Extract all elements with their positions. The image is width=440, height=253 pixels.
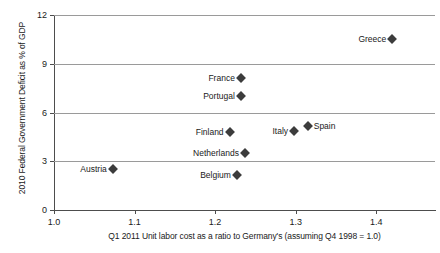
- x-tick-label: 1.0: [48, 217, 61, 227]
- data-point-label: Greece: [358, 34, 386, 44]
- data-point-label: Spain: [314, 121, 336, 131]
- y-tick-mark: [50, 64, 54, 65]
- x-tick-mark: [376, 210, 377, 214]
- gridline: [54, 64, 435, 65]
- chart-figure: 2010 Federal Government Deficit as % of …: [0, 0, 440, 253]
- gridline: [54, 15, 435, 16]
- y-tick-mark: [50, 161, 54, 162]
- data-point-marker[interactable]: [240, 148, 250, 158]
- data-point-marker[interactable]: [236, 73, 246, 83]
- data-point-label: Portugal: [203, 91, 235, 101]
- data-point-label: Belgium: [200, 170, 231, 180]
- x-tick-label: 1.1: [128, 217, 141, 227]
- x-axis-line: [54, 210, 436, 211]
- data-point-marker[interactable]: [289, 126, 299, 136]
- data-point-marker[interactable]: [303, 121, 313, 131]
- y-tick-label: 0: [42, 205, 47, 215]
- plot-area: 036912 1.01.11.21.31.4 GreeceFrancePortu…: [54, 15, 435, 210]
- data-point-marker[interactable]: [225, 127, 235, 137]
- y-tick-label: 12: [37, 10, 47, 20]
- data-point-marker[interactable]: [108, 164, 118, 174]
- y-tick-label: 9: [42, 59, 47, 69]
- data-point-label: Netherlands: [193, 148, 239, 158]
- y-tick-mark: [50, 15, 54, 16]
- y-tick-label: 3: [42, 156, 47, 166]
- x-tick-mark: [54, 210, 55, 214]
- gridline: [54, 113, 435, 114]
- data-point-label: France: [208, 73, 234, 83]
- y-tick-label: 6: [42, 108, 47, 118]
- x-tick-label: 1.3: [289, 217, 302, 227]
- data-point-label: Austria: [80, 164, 106, 174]
- data-point-marker[interactable]: [236, 91, 246, 101]
- x-tick-label: 1.4: [370, 217, 383, 227]
- y-tick-mark: [50, 113, 54, 114]
- data-point-label: Finland: [196, 127, 224, 137]
- x-tick-mark: [135, 210, 136, 214]
- data-point-label: Italy: [272, 126, 288, 136]
- y-axis-title: 2010 Federal Government Deficit as % of …: [17, 0, 27, 218]
- gridline: [54, 161, 435, 162]
- x-tick-mark: [296, 210, 297, 214]
- x-tick-mark: [215, 210, 216, 214]
- x-tick-label: 1.2: [209, 217, 222, 227]
- data-point-marker[interactable]: [232, 170, 242, 180]
- x-axis-title: Q1 2011 Unit labor cost as a ratio to Ge…: [54, 231, 435, 241]
- data-point-marker[interactable]: [387, 34, 397, 44]
